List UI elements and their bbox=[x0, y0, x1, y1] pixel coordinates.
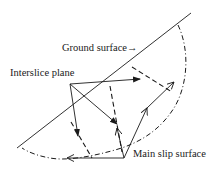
main-slip-surface-label: Main slip surface bbox=[133, 149, 206, 160]
slip-arrow-mid bbox=[117, 128, 124, 158]
slip-arrow-right-upper bbox=[147, 82, 174, 108]
ground-surface-text: Ground surface bbox=[62, 42, 127, 53]
arrow-right-icon: → bbox=[127, 42, 138, 53]
interslice-plane-3 bbox=[71, 122, 92, 158]
ground-surface-label: Ground surface→ bbox=[62, 43, 138, 54]
interslice-plane-label: Interslice plane bbox=[10, 68, 74, 79]
interslice-arrow-2 bbox=[70, 84, 117, 124]
ground-surface-line bbox=[17, 13, 191, 148]
interslice-arrow-3 bbox=[70, 84, 78, 136]
